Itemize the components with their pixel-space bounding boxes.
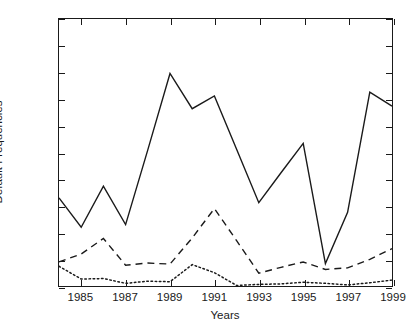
- x-tick-mark: [394, 280, 395, 286]
- series-line-dotted: [59, 265, 392, 286]
- x-tick-mark: [81, 19, 82, 25]
- y-tick-mark: [59, 288, 65, 289]
- y-tick-mark: [59, 207, 65, 208]
- y-tick-mark: [386, 19, 392, 20]
- x-tick-mark: [349, 19, 350, 25]
- y-tick-mark: [59, 127, 65, 128]
- y-tick-mark: [59, 261, 65, 262]
- x-tick-mark: [215, 19, 216, 25]
- y-tick-mark: [386, 154, 392, 155]
- x-tick-mark: [260, 19, 261, 25]
- x-tick-mark: [126, 280, 127, 286]
- y-tick-mark: [59, 100, 65, 101]
- x-tick-mark: [260, 280, 261, 286]
- y-tick-mark: [386, 127, 392, 128]
- y-tick-mark: [386, 234, 392, 235]
- x-tick-mark: [349, 280, 350, 286]
- y-tick-mark: [59, 154, 65, 155]
- y-tick-mark: [59, 46, 65, 47]
- y-tick-mark: [59, 73, 65, 74]
- x-tick-mark: [215, 280, 216, 286]
- x-tick-label: 1995: [291, 291, 317, 303]
- y-axis-title: Default Frequencies: [0, 101, 4, 204]
- series-line-solid: [59, 73, 392, 263]
- chart-figure: Default Frequencies Years 00.050.10.150.…: [0, 0, 415, 332]
- x-tick-mark: [305, 19, 306, 25]
- x-tick-mark: [171, 19, 172, 25]
- y-tick-mark: [59, 19, 65, 20]
- x-tick-mark: [394, 19, 395, 25]
- x-tick-mark: [171, 280, 172, 286]
- x-tick-mark: [305, 280, 306, 286]
- x-tick-mark: [126, 19, 127, 25]
- x-tick-label: 1997: [336, 291, 362, 303]
- y-tick-mark: [59, 180, 65, 181]
- x-axis-title: Years: [211, 309, 240, 321]
- y-tick-mark: [386, 261, 392, 262]
- x-tick-label: 1989: [157, 291, 183, 303]
- series-layer: [59, 19, 392, 286]
- y-tick-mark: [59, 234, 65, 235]
- x-tick-label: 1991: [202, 291, 228, 303]
- x-tick-mark: [81, 280, 82, 286]
- y-tick-mark: [386, 73, 392, 74]
- y-tick-mark: [386, 100, 392, 101]
- y-tick-mark: [386, 288, 392, 289]
- y-tick-mark: [386, 180, 392, 181]
- plot-area: [58, 18, 393, 287]
- x-tick-label: 1987: [112, 291, 138, 303]
- x-tick-label: 1999: [380, 291, 406, 303]
- x-tick-label: 1985: [68, 291, 94, 303]
- y-tick-mark: [386, 207, 392, 208]
- series-line-dashed: [59, 209, 392, 274]
- x-tick-label: 1993: [246, 291, 272, 303]
- y-tick-mark: [386, 46, 392, 47]
